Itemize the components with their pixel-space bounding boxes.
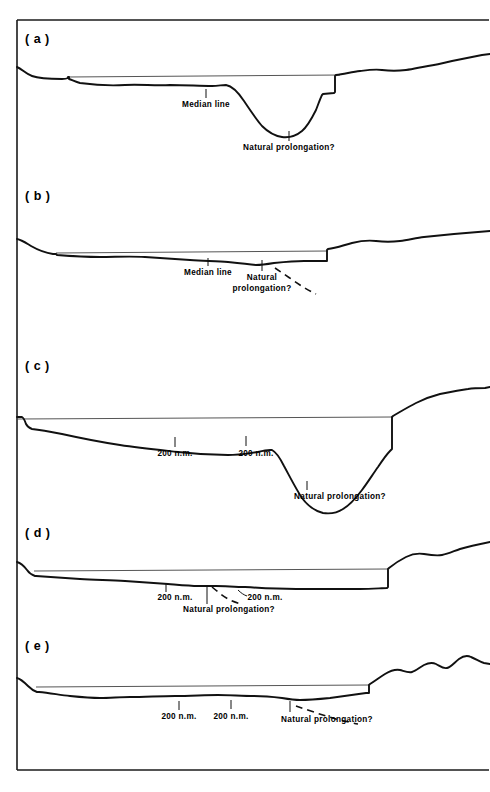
panel-b-median-baseline — [56, 251, 328, 253]
panel-b-prolongation-label-line1: Natural — [247, 273, 277, 282]
panel-e-letter: ( e ) — [25, 639, 50, 653]
panel-d-prolongation-dashed — [212, 587, 241, 604]
panel-a-letter: ( a ) — [25, 32, 50, 46]
panel-d-nm200-right-leader — [238, 590, 247, 596]
panel-a: ( a ) Median line Natural prolongation? — [17, 32, 490, 152]
panel-d-median-baseline — [34, 569, 388, 571]
panel-d-prolongation-label: Natural prolongation? — [183, 605, 275, 614]
panel-b-median-label: Median line — [184, 268, 232, 277]
panel-d-nm200-right-label: 200 n.m. — [247, 593, 282, 602]
panel-a-seabed-profile — [17, 54, 490, 137]
panel-c-letter: ( c ) — [25, 359, 50, 373]
panel-a-median-baseline — [68, 75, 340, 77]
panel-c-nm200-left-label: 200 n.m. — [157, 449, 192, 458]
figure-root: ( a ) Median line Natural prolongation? … — [0, 0, 490, 792]
panel-c-median-baseline — [18, 417, 392, 419]
panel-a-median-label: Median line — [182, 100, 230, 109]
panel-d-nm200-left-label: 200 n.m. — [157, 593, 192, 602]
panel-b-seabed-profile — [17, 231, 490, 265]
panel-d: ( d ) 200 n.m. 200 n.m. Natural prolonga… — [17, 526, 490, 614]
panel-e-seabed-profile — [17, 656, 490, 700]
figure-frame — [17, 20, 489, 770]
panel-e: ( e ) 200 n.m. 200 n.m. Natural prolonga… — [17, 639, 490, 724]
panel-c-prolongation-label: Natural prolongation? — [294, 492, 386, 501]
panel-e-median-baseline — [36, 685, 370, 687]
panel-d-seabed-profile — [17, 542, 490, 589]
panel-e-nm200-right-label: 200 n.m. — [213, 712, 248, 721]
panel-c-nm200-right-label: 200 n.m. — [238, 449, 273, 458]
panel-b-prolongation-label-line2: prolongation? — [233, 284, 292, 293]
seabed-profile-figure: ( a ) Median line Natural prolongation? … — [0, 0, 490, 792]
panel-a-prolongation-label: Natural prolongation? — [243, 143, 335, 152]
panel-e-prolongation-label: Natural prolongation? — [281, 715, 373, 724]
panel-c: ( c ) 200 n.m. 200 n.m. Natural prolonga… — [17, 359, 490, 513]
panel-b-letter: ( b ) — [25, 189, 50, 203]
panel-d-letter: ( d ) — [25, 526, 50, 540]
panel-e-nm200-left-label: 200 n.m. — [161, 712, 196, 721]
panel-b: ( b ) Median line Natural prolongation? — [17, 189, 490, 294]
